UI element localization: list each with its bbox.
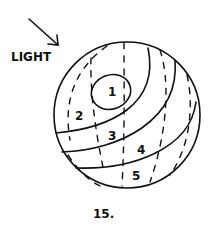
zone-4-label: 4 (137, 143, 145, 157)
light-arrow-icon (29, 19, 58, 45)
sphere-shading-diagram: LIGHT 1 2 3 4 5 15. (0, 0, 208, 231)
figure-caption: 15. (93, 207, 114, 221)
dashed-contours (68, 43, 190, 186)
zone-5-label: 5 (132, 169, 140, 183)
zone-2-label: 2 (75, 109, 83, 123)
light-label: LIGHT (11, 50, 52, 64)
zone-3-boundary (62, 60, 175, 152)
zone-1-label: 1 (108, 85, 116, 99)
zone-3-label: 3 (108, 129, 116, 143)
zone-2-boundary (56, 48, 150, 133)
